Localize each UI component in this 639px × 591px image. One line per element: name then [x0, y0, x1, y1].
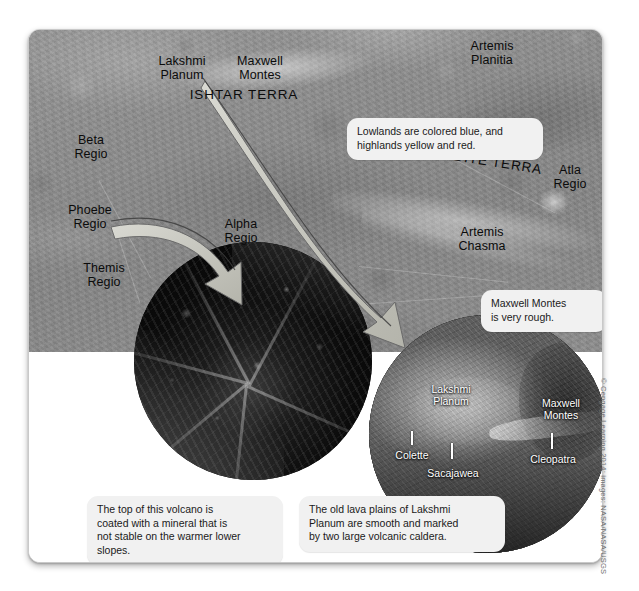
caption-lava-plains: The old lava plains of Lakshmi Planum ar… [299, 496, 505, 552]
image-credit: © Cengage Learning 2014; images: NASA/NA… [599, 378, 608, 574]
callout-maxwell-rough: Maxwell Montes is very rough. [481, 290, 603, 332]
map-label-phoebe-regio: Phoebe Regio [49, 204, 131, 231]
inset-label-colette: Colette [377, 449, 447, 461]
colette-tick [411, 431, 413, 445]
cleopatra-tick [551, 433, 553, 449]
map-label-maxwell-montes: Maxwell Montes [217, 55, 303, 82]
inset-label-maxwell-montes: Maxwell Montes [515, 397, 603, 421]
map-label-beta-regio: Beta Regio [55, 134, 127, 161]
figure-card: Lakshmi Planum Maxwell Montes Colette Sa… [28, 29, 603, 563]
caption-volcano-mineral: The top of this volcano is coated with a… [87, 496, 283, 563]
inset-label-sacajawea: Sacajawea [405, 467, 501, 479]
inset-label-cleopatra: Cleopatra [505, 453, 601, 465]
venus-map-figure: Lakshmi Planum Maxwell Montes Colette Sa… [0, 0, 639, 591]
map-label-lakshmi-planum: Lakshmi Planum [139, 55, 225, 82]
map-label-artemis-planitia: Artemis Planitia [447, 40, 537, 67]
map-label-themis-regio: Themis Regio [65, 262, 143, 289]
volcano-circular-inset [134, 242, 372, 480]
callout-lowlands-colors: Lowlands are colored blue, and highlands… [347, 118, 543, 160]
inset-label-lakshmi-planum: Lakshmi Planum [403, 383, 499, 407]
map-label-alpha-regio: Alpha Regio [203, 218, 279, 245]
sacajawea-tick [451, 443, 453, 459]
map-label-artemis-chasma: Artemis Chasma [437, 226, 527, 253]
map-label-ishtar-terra: ISHTAR TERRA [159, 88, 329, 102]
